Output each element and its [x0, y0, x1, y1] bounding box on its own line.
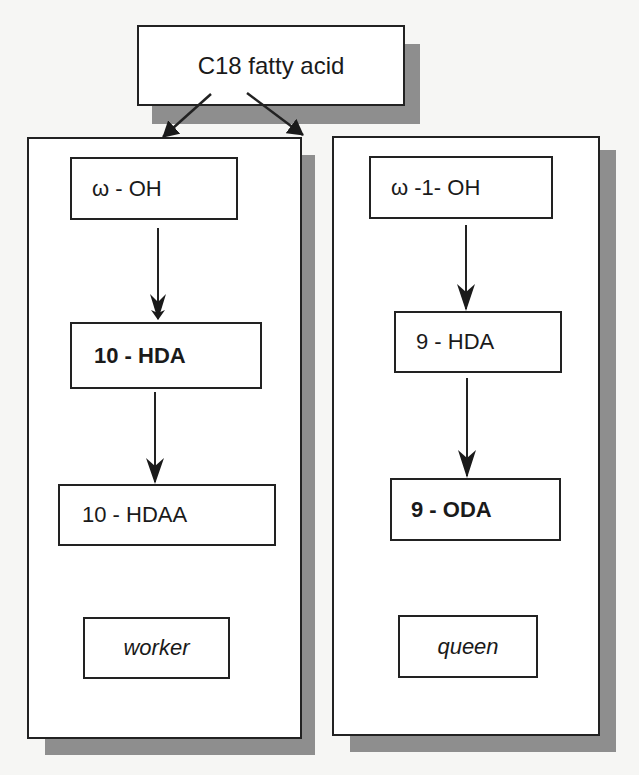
- arrow-9-hda-to-9-oda: [458, 378, 476, 478]
- arrow-root-to-omega-oh: [163, 94, 211, 137]
- arrow-omega-oh-to-10-hda: [150, 228, 166, 320]
- arrow-omega-1-oh-to-9-hda: [457, 225, 475, 311]
- arrow-root-to-omega-1-oh: [247, 93, 303, 135]
- arrow-10-hda-to-10-hdaa: [146, 392, 164, 484]
- edges-layer: [0, 0, 639, 775]
